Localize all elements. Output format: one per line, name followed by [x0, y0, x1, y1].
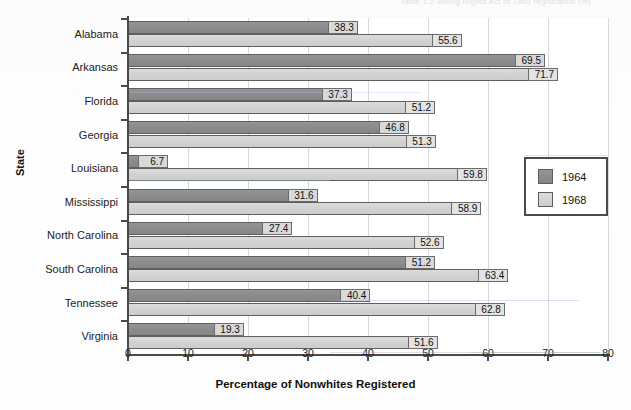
legend-item-1964: 1964: [538, 169, 586, 184]
x-axis-title: Percentage of Nonwhites Registered: [0, 378, 631, 390]
bar-value-label: 40.4: [340, 289, 370, 302]
bar-value-label: 51.2: [405, 256, 435, 269]
bar-1968: [128, 135, 436, 148]
bar-value-label: 37.3: [322, 88, 352, 101]
x-axis-tick-label: 20: [242, 347, 254, 359]
chart-page: Table 1.2 Voting Rights Act of 1965 regi…: [0, 0, 631, 410]
bar-value-label: 27.4: [262, 222, 292, 235]
legend-label-1968: 1968: [562, 194, 586, 206]
bar-1964: [128, 54, 545, 67]
bar-1968: [128, 168, 487, 181]
bar-value-label: 19.3: [214, 323, 244, 336]
legend-label-1964: 1964: [562, 171, 586, 183]
y-axis-category-label: Mississippi: [65, 196, 118, 208]
y-axis-category-label: South Carolina: [45, 263, 118, 275]
bar-1968: [128, 236, 444, 249]
bar-value-label: 51.2: [405, 101, 435, 114]
bar-value-label: 55.6: [432, 34, 462, 47]
bar-value-label: 51.3: [406, 135, 436, 148]
bar-value-label: 63.4: [478, 269, 508, 282]
bar-value-label: 6.7: [138, 155, 168, 168]
bar-value-label: 52.6: [414, 236, 444, 249]
bar-value-label: 62.8: [475, 303, 505, 316]
bar-value-label: 59.8: [457, 168, 487, 181]
x-axis-tick-label: 60: [482, 347, 494, 359]
bar-1968: [128, 68, 558, 81]
x-axis-tick-label: 80: [602, 347, 614, 359]
bar-value-label: 46.8: [379, 121, 409, 134]
bar-1968: [128, 34, 462, 47]
bar-1964: [128, 21, 358, 34]
bar-value-label: 38.3: [328, 21, 358, 34]
bar-1968: [128, 101, 435, 114]
x-axis-tick-label: 50: [422, 347, 434, 359]
x-axis-tick-label: 70: [542, 347, 554, 359]
legend-item-1968: 1968: [538, 192, 586, 207]
bar-1964: [128, 289, 370, 302]
y-axis-category-label: Florida: [84, 95, 118, 107]
x-axis-tick-label: 10: [182, 347, 194, 359]
bar-1968: [128, 336, 438, 349]
y-axis-category-label: Louisiana: [71, 162, 118, 174]
bar-1964: [128, 88, 352, 101]
y-axis-category-label: North Carolina: [47, 229, 118, 241]
bar-value-label: 58.9: [451, 202, 481, 215]
legend-swatch-1964-icon: [538, 169, 553, 184]
y-axis-category-label: Alabama: [75, 28, 118, 40]
legend-swatch-1968-icon: [538, 192, 553, 207]
y-axis-category-label: Virginia: [82, 330, 119, 342]
bar-1968: [128, 303, 505, 316]
y-axis-category-label: Georgia: [79, 129, 118, 141]
bar-value-label: 31.6: [288, 189, 318, 202]
y-axis-category-label: Tennessee: [65, 297, 118, 309]
y-axis-line: [127, 16, 129, 356]
bar-1968: [128, 269, 508, 282]
legend-box: 1964 1968: [524, 157, 608, 216]
y-axis-category-label: Arkansas: [72, 61, 118, 73]
cut-off-title-remnant: Table 1.2 Voting Rights Act of 1965 regi…: [400, 0, 625, 6]
y-axis-title: State: [14, 149, 26, 176]
bar-1964: [128, 121, 409, 134]
bar-1968: [128, 202, 481, 215]
x-axis-tick-label: 0: [125, 347, 131, 359]
bar-value-label: 69.5: [515, 54, 545, 67]
x-axis-tick-label: 40: [362, 347, 374, 359]
bar-1964: [128, 256, 435, 269]
bar-value-label: 71.7: [528, 68, 558, 81]
gridline: [608, 18, 609, 354]
x-axis-tick-label: 30: [302, 347, 314, 359]
